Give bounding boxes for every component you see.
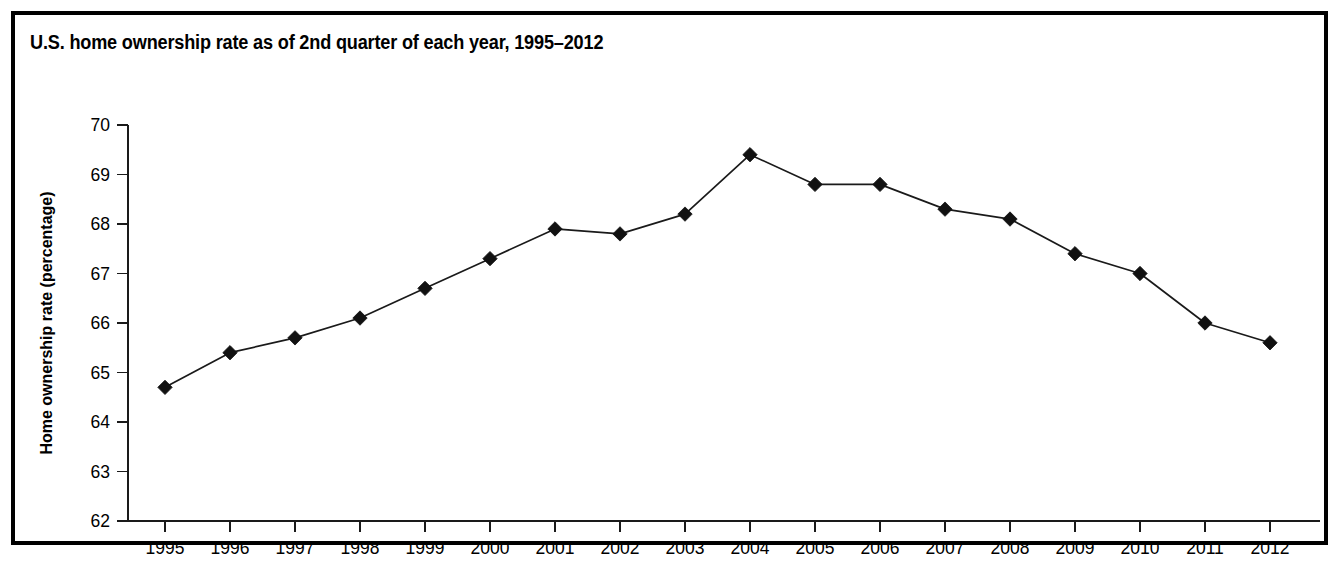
x-tick-label: 2004 [731, 538, 770, 558]
data-point-marker: 2007: 68.3 [938, 202, 952, 216]
y-axis-label: Home ownership rate (percentage) [38, 191, 55, 454]
data-point-marker: 2002: 67.8 [613, 227, 627, 241]
data-point-marker: 1996: 65.4 [223, 346, 237, 360]
y-tick-label: 67 [91, 264, 110, 284]
x-tick-label: 2009 [1056, 538, 1095, 558]
x-tick-label: 2012 [1251, 538, 1290, 558]
y-tick-label: 62 [91, 511, 110, 531]
y-tick-label: 64 [91, 412, 111, 432]
y-tick-label: 69 [91, 165, 110, 185]
chart-figure: U.S. home ownership rate as of 2nd quart… [0, 0, 1341, 579]
y-tick-label: 68 [91, 214, 110, 234]
x-tick-label: 2002 [601, 538, 640, 558]
data-point-marker: 1999: 66.7 [418, 281, 432, 295]
x-tick-label: 2007 [926, 538, 965, 558]
data-point-marker: 1997: 65.7 [288, 331, 302, 345]
x-tick-label: 1998 [341, 538, 380, 558]
y-tick-label: 70 [91, 115, 111, 135]
data-point-marker: 2009: 67.4 [1068, 247, 1082, 261]
x-tick-label: 2008 [991, 538, 1030, 558]
x-tick-label: 2003 [666, 538, 705, 558]
y-tick-label: 63 [91, 462, 110, 482]
line-chart-plot: 626364656667686970 199519961997199819992… [0, 0, 1341, 579]
data-point-marker: 2001: 67.9 [548, 222, 562, 236]
data-series: 1995: 64.71996: 65.41997: 65.71998: 66.1… [158, 148, 1277, 395]
x-tick-label: 2010 [1121, 538, 1160, 558]
x-tick-label: 1996 [211, 538, 250, 558]
y-tick-label: 66 [91, 313, 110, 333]
data-point-marker: 2011: 66 [1198, 316, 1212, 330]
y-axis-title: Home ownership rate (percentage) [38, 191, 55, 454]
x-tick-label: 1999 [406, 538, 445, 558]
x-tick-label: 2005 [796, 538, 835, 558]
data-point-marker: 2010: 67 [1133, 266, 1147, 280]
x-tick-label: 2006 [861, 538, 900, 558]
x-tick-label: 2000 [471, 538, 510, 558]
x-axis: 1995199619971998199920002001200220032004… [128, 521, 1320, 558]
x-tick-label: 1995 [146, 538, 185, 558]
x-tick-label: 2011 [1186, 538, 1224, 558]
y-tick-label: 65 [91, 363, 110, 383]
cutoff-caption [15, 556, 1325, 576]
x-tick-label: 2001 [536, 538, 575, 558]
data-point-marker: 2005: 68.8 [808, 177, 822, 191]
data-point-marker: 2008: 68.1 [1003, 212, 1017, 226]
data-point-marker: 2012: 65.6 [1263, 336, 1277, 350]
data-point-marker: 2000: 67.3 [483, 251, 497, 265]
data-point-marker: 1998: 66.1 [353, 311, 367, 325]
y-axis: 626364656667686970 [91, 115, 128, 531]
x-tick-label: 1997 [276, 538, 315, 558]
data-point-marker: 1995: 64.7 [158, 380, 172, 394]
data-point-marker: 2006: 68.8 [873, 177, 887, 191]
